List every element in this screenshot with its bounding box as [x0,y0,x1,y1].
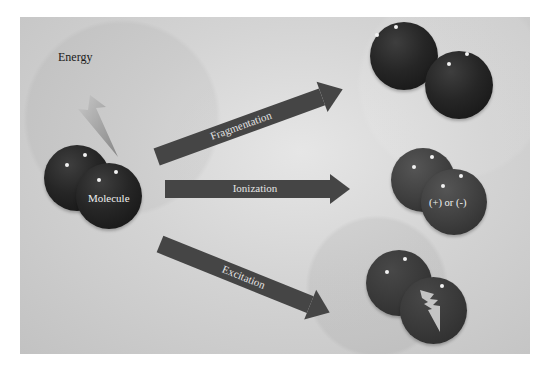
energy-label: Energy [58,50,92,65]
ionization-arrow: Ionization [165,174,350,204]
highlight-dot [447,62,451,66]
highlight-dot [83,153,87,157]
ion-atom-2: (+) or (-) [421,169,487,235]
highlight-dot [375,33,379,37]
highlight-dot [394,25,398,29]
molecule-label: Molecule [88,192,130,204]
highlight-dot [430,155,434,159]
highlight-dot [97,178,101,182]
highlight-dot [412,165,416,169]
excited-atom-2 [400,277,467,344]
highlight-dot [114,170,118,174]
fragment-atom-2 [425,51,493,119]
lightning-bolt-icon [420,290,444,332]
molecule-atom-2: Molecule [76,163,142,229]
highlight-dot [403,257,407,261]
ion-charge-label: (+) or (-) [429,197,466,208]
highlight-dot [459,174,463,178]
highlight-dot [385,270,389,274]
highlight-dot [440,284,444,288]
ionization-label: Ionization [195,182,315,194]
highlight-dot [465,52,469,56]
highlight-dot [441,184,445,188]
highlight-dot [65,163,69,167]
